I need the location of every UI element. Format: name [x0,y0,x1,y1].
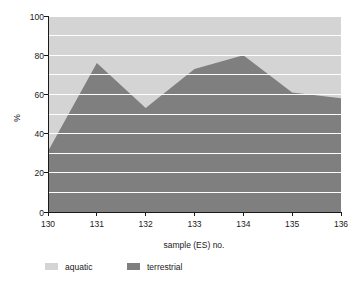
legend-label-aquatic: aquatic [65,262,93,272]
x-axis-title: sample (ES) no. [164,240,225,250]
y-tick-label-40: 40 [35,129,45,139]
x-tick-label-135: 135 [285,219,299,229]
legend-swatch-terrestrial [127,263,140,270]
x-tick-label-134: 134 [236,219,250,229]
y-tick-label-80: 80 [35,51,45,61]
legend-swatch-aquatic [45,263,58,270]
x-tick-label-136: 136 [334,219,348,229]
legend-label-terrestrial: terrestrial [147,262,183,272]
y-tick-label-20: 20 [35,168,45,178]
y-tick-label-60: 60 [35,90,45,100]
x-tick-label-133: 133 [187,219,201,229]
y-tick-label-100: 100 [30,12,44,22]
x-tick-label-132: 132 [139,219,153,229]
x-tick-label-130: 130 [41,219,55,229]
area-chart: 100 80 60 40 20 0 % 130 131 132 133 134 … [0,0,358,282]
y-tick-label-0: 0 [39,208,44,218]
chart-container: 100 80 60 40 20 0 % 130 131 132 133 134 … [0,0,358,282]
x-tick-label-131: 131 [90,219,104,229]
y-axis-title: % [12,114,22,122]
